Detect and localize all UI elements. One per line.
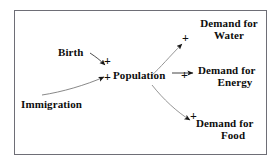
node-label-immigration: Immigration — [21, 99, 82, 111]
link-polarity-population-energy: + — [181, 69, 188, 81]
link-polarity-population-food: + — [190, 110, 197, 122]
arrow-immigration-to-population — [42, 77, 104, 95]
node-label-birth: Birth — [58, 47, 84, 59]
link-polarity-population-water: + — [182, 32, 189, 44]
diagram-canvas: Birth Immigration Population Demand for … — [0, 0, 279, 168]
arrow-population-to-food — [152, 85, 190, 120]
node-label-demand-for-food-line1: Demand for — [196, 117, 254, 129]
link-polarity-immigration-population: + — [104, 71, 111, 83]
node-label-demand-for-food: Demand for Food — [196, 118, 270, 141]
node-label-demand-for-food-line2: Food — [196, 130, 270, 142]
node-label-demand-for-water-line1: Demand for — [200, 17, 257, 29]
node-label-demand-for-water-line2: Water — [214, 29, 244, 41]
node-label-demand-for-energy-line1: Demand for — [198, 64, 256, 76]
arrow-birth-to-population — [90, 53, 105, 65]
node-label-demand-for-water: Demand for Water — [193, 18, 265, 41]
node-label-demand-for-energy: Demand for Energy — [198, 65, 272, 88]
node-label-population: Population — [113, 70, 165, 82]
node-label-demand-for-energy-line2: Energy — [198, 77, 272, 89]
link-polarity-birth-population: + — [104, 55, 111, 67]
